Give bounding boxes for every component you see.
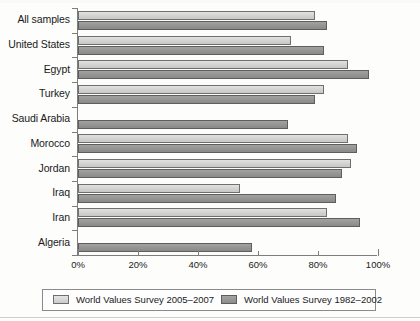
bar-iran-series-0 bbox=[78, 208, 327, 217]
y-axis-tick bbox=[72, 8, 77, 9]
x-axis-tick-label-100: 100% bbox=[366, 259, 390, 270]
category-label-egypt: Egypt bbox=[44, 64, 70, 75]
bar-turkey-series-0 bbox=[78, 85, 324, 94]
x-axis-line bbox=[77, 255, 377, 256]
bar-iran-series-1 bbox=[78, 218, 360, 227]
page-bottom-rule bbox=[0, 317, 420, 318]
category-label-jordan: Jordan bbox=[38, 163, 70, 174]
bar-jordan-series-0 bbox=[78, 159, 351, 168]
x-axis-tick-80 bbox=[318, 251, 319, 256]
bar-all-samples-series-0 bbox=[78, 11, 315, 20]
x-axis-tick-label-60: 60% bbox=[248, 259, 267, 270]
legend-entry-1: World Values Survey 1982–2002 bbox=[221, 294, 382, 305]
y-axis-tick bbox=[72, 82, 77, 83]
bar-morocco-series-1 bbox=[78, 144, 357, 153]
category-label-iran: Iran bbox=[52, 212, 70, 223]
plot-area: All samplesUnited StatesEgyptTurkeySaudi… bbox=[0, 0, 420, 283]
y-axis-tick bbox=[72, 255, 77, 256]
bar-egypt-series-1 bbox=[78, 70, 369, 79]
bar-turkey-series-1 bbox=[78, 95, 315, 104]
y-axis-tick bbox=[72, 107, 77, 108]
x-axis-tick-label-40: 40% bbox=[188, 259, 207, 270]
bar-united-states-series-0 bbox=[78, 36, 291, 45]
bar-united-states-series-1 bbox=[78, 46, 324, 55]
y-axis-tick bbox=[72, 33, 77, 34]
category-label-saudi-arabia: Saudi Arabia bbox=[12, 113, 70, 124]
category-label-algeria: Algeria bbox=[38, 237, 70, 248]
x-axis-tick-60 bbox=[258, 251, 259, 256]
y-axis-tick bbox=[72, 230, 77, 231]
bar-iraq-series-1 bbox=[78, 194, 336, 203]
legend-swatch-dark-icon bbox=[221, 295, 237, 304]
category-label-iraq: Iraq bbox=[52, 187, 70, 198]
bar-algeria-series-1 bbox=[78, 243, 252, 252]
bar-jordan-series-1 bbox=[78, 169, 342, 178]
category-axis-labels: All samplesUnited StatesEgyptTurkeySaudi… bbox=[0, 8, 74, 255]
category-label-all-samples: All samples bbox=[17, 14, 70, 25]
bar-all-samples-series-1 bbox=[78, 21, 327, 30]
legend-label-0: World Values Survey 2005–2007 bbox=[76, 294, 214, 305]
x-axis-tick-20 bbox=[138, 251, 139, 256]
x-axis-tick-0 bbox=[78, 249, 79, 256]
y-axis-tick bbox=[72, 57, 77, 58]
x-axis-tick-100 bbox=[378, 249, 379, 256]
chart-legend: World Values Survey 2005–2007 World Valu… bbox=[42, 289, 376, 311]
category-label-turkey: Turkey bbox=[39, 88, 70, 99]
bars-container bbox=[78, 8, 378, 255]
y-axis-tick bbox=[72, 132, 77, 133]
legend-label-1: World Values Survey 1982–2002 bbox=[244, 294, 382, 305]
bar-morocco-series-0 bbox=[78, 134, 348, 143]
bar-egypt-series-0 bbox=[78, 60, 348, 69]
bar-chart-figure: All samplesUnited StatesEgyptTurkeySaudi… bbox=[0, 0, 420, 321]
y-axis-tick bbox=[72, 156, 77, 157]
category-label-morocco: Morocco bbox=[30, 138, 70, 149]
y-axis-tick bbox=[72, 206, 77, 207]
x-axis-tick-40 bbox=[198, 251, 199, 256]
legend-entry-0: World Values Survey 2005–2007 bbox=[53, 294, 214, 305]
x-axis-tick-label-20: 20% bbox=[128, 259, 147, 270]
x-axis-tick-label-80: 80% bbox=[308, 259, 327, 270]
bar-iraq-series-0 bbox=[78, 184, 240, 193]
y-axis-tick bbox=[72, 181, 77, 182]
category-label-united-states: United States bbox=[8, 39, 70, 50]
x-axis-tick-label-0: 0% bbox=[71, 259, 85, 270]
legend-swatch-light-icon bbox=[53, 295, 69, 304]
bar-saudi-arabia-series-1 bbox=[78, 120, 288, 129]
